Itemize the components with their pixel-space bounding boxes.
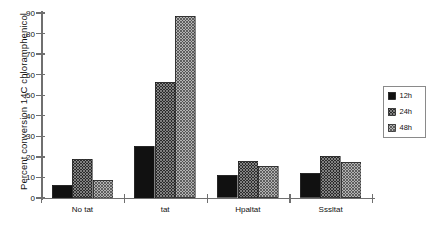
bar [258, 166, 279, 198]
y-axis-tick-label: 30 [5, 132, 35, 141]
bar [238, 161, 259, 198]
y-axis-tick-label: 10 [5, 173, 35, 182]
y-axis-tick-label: 0 [5, 194, 35, 203]
legend-swatch-icon [388, 124, 396, 132]
bar [175, 16, 196, 198]
y-axis-tick-label: 50 [5, 91, 35, 100]
bar [72, 159, 93, 198]
bar-chart: Percent conversion 14C chloramphenicol 0… [0, 0, 429, 227]
x-axis-category-label: Hpaltat [235, 205, 260, 214]
bar [155, 82, 176, 198]
legend-swatch-icon [388, 108, 396, 116]
x-axis-category-label: tat [161, 205, 170, 214]
bar [300, 173, 321, 198]
bar [52, 185, 73, 198]
legend-label: 48h [400, 124, 413, 132]
bar [134, 146, 155, 198]
x-axis-category-label: No tat [72, 205, 93, 214]
x-axis-category-label: Sssltat [319, 205, 343, 214]
plot-area [41, 13, 372, 198]
legend-label: 24h [400, 108, 413, 116]
bar [341, 162, 362, 198]
legend-item[interactable]: 48h [388, 124, 412, 132]
legend: 12h24h48h [383, 86, 426, 138]
y-axis-tick-label: 90 [5, 9, 35, 18]
x-axis-tick [372, 194, 373, 203]
legend-item[interactable]: 12h [388, 92, 412, 100]
y-axis-tick-label: 80 [5, 29, 35, 38]
y-axis-tick-label: 20 [5, 152, 35, 161]
bar [320, 156, 341, 198]
y-axis-tick-label: 70 [5, 50, 35, 59]
legend-item[interactable]: 24h [388, 108, 412, 116]
y-axis-tick-label: 40 [5, 111, 35, 120]
y-axis-tick-label: 60 [5, 70, 35, 79]
legend-label: 12h [400, 92, 413, 100]
bar [217, 175, 238, 198]
bar [93, 180, 114, 199]
legend-swatch-icon [388, 92, 396, 100]
